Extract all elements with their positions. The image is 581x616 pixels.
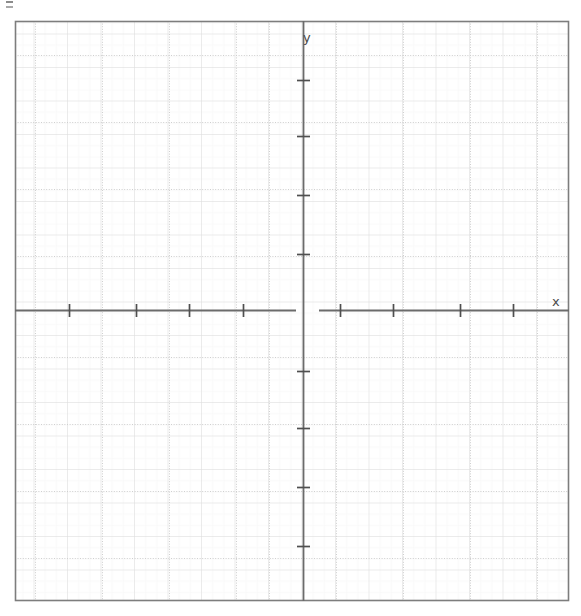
x-axis-label: x xyxy=(552,295,560,308)
cartesian-plane-svg xyxy=(0,0,581,616)
coordinate-grid-figure: y x xyxy=(0,0,581,616)
y-axis-label: y xyxy=(303,31,311,44)
